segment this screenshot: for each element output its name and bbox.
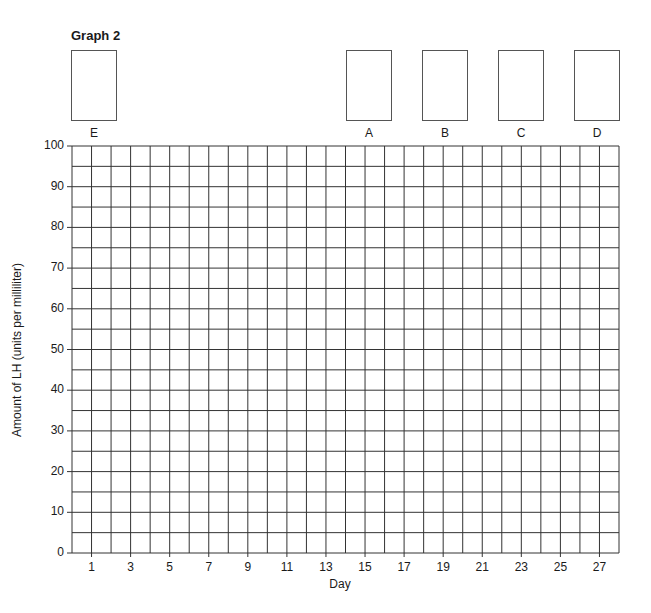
x-tick-label: 13 bbox=[311, 560, 341, 574]
x-axis-label: Day bbox=[320, 577, 360, 591]
x-tick-label: 27 bbox=[584, 560, 614, 574]
x-tick-label: 3 bbox=[116, 560, 146, 574]
x-tick-label: 1 bbox=[77, 560, 107, 574]
y-tick-label: 40 bbox=[34, 382, 64, 396]
y-tick-label: 50 bbox=[34, 342, 64, 356]
y-tick-label: 60 bbox=[34, 301, 64, 315]
x-tick-label: 9 bbox=[233, 560, 263, 574]
y-tick-label: 100 bbox=[34, 138, 64, 152]
graph-grid[interactable] bbox=[0, 0, 651, 613]
y-tick-label: 70 bbox=[34, 260, 64, 274]
x-tick-label: 15 bbox=[350, 560, 380, 574]
x-tick-label: 25 bbox=[545, 560, 575, 574]
y-tick-label: 10 bbox=[34, 504, 64, 518]
y-tick-label: 30 bbox=[34, 423, 64, 437]
y-axis-label: Amount of LH (units per milliliter) bbox=[10, 263, 24, 437]
x-tick-label: 11 bbox=[272, 560, 302, 574]
x-tick-label: 17 bbox=[389, 560, 419, 574]
x-tick-label: 5 bbox=[155, 560, 185, 574]
y-tick-label: 80 bbox=[34, 219, 64, 233]
x-tick-label: 21 bbox=[467, 560, 497, 574]
y-tick-label: 20 bbox=[34, 464, 64, 478]
y-tick-label: 0 bbox=[34, 545, 64, 559]
x-tick-label: 7 bbox=[194, 560, 224, 574]
y-tick-label: 90 bbox=[34, 179, 64, 193]
x-tick-label: 19 bbox=[428, 560, 458, 574]
x-tick-label: 23 bbox=[506, 560, 536, 574]
